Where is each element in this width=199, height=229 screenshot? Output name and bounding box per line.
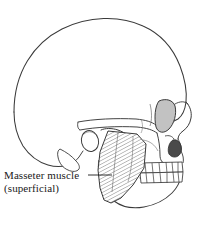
cranial-vault <box>14 18 186 166</box>
external-auditory-meatus <box>79 129 101 153</box>
anatomical-figure: Masseter muscle (superficial) <box>0 0 199 229</box>
upper-dental-arch <box>139 162 183 173</box>
lower-dental-arch <box>140 172 183 183</box>
masseter-label-line2: (superficial) <box>4 182 59 195</box>
masseter-label: Masseter muscle (superficial) <box>4 169 112 195</box>
nasal-aperture <box>165 136 181 157</box>
masseter-muscle <box>98 131 146 203</box>
skull-lateral-diagram: Masseter muscle (superficial) <box>0 0 199 229</box>
masseter-label-line1: Masseter muscle <box>4 169 79 181</box>
